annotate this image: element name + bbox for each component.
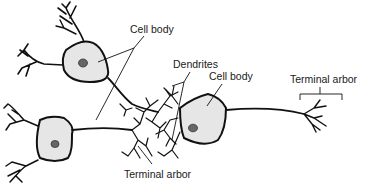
neuron-bottom-left (4, 104, 132, 182)
label-terminal-arbor-right: Terminal arbor (290, 73, 358, 85)
label-terminal-arbor-bottom: Terminal arbor (124, 168, 192, 180)
nucleus (79, 59, 88, 67)
bracket (300, 87, 342, 100)
nucleus (51, 141, 59, 148)
neuron-right (180, 94, 326, 144)
dendrite-tangle (120, 86, 180, 158)
label-cell-body-right: Cell body (209, 70, 254, 82)
cell-body-right (180, 94, 226, 144)
neuron-diagram: Cell body Dendrites Cell body Terminal a… (0, 0, 368, 186)
neuron-top-left (18, 2, 158, 112)
nucleus (189, 124, 198, 132)
leader-line (138, 146, 152, 164)
cell-body-bottom-left (37, 117, 73, 161)
label-dendrites: Dendrites (173, 58, 218, 70)
label-cell-body-top: Cell body (130, 23, 175, 35)
